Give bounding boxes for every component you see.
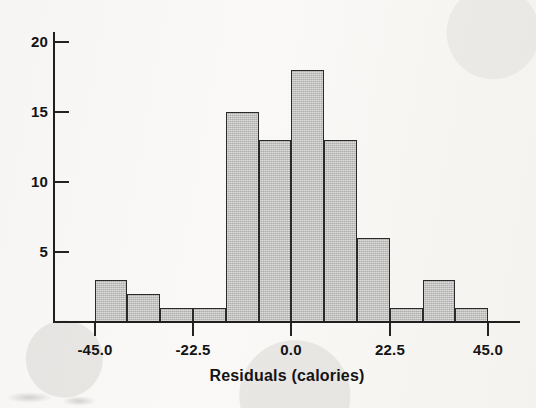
histogram-plot: 20 15 10 5 -45.0 -22.5 0.0 22.5 45.0 Res… bbox=[0, 0, 536, 408]
histogram-bar bbox=[226, 112, 259, 322]
histogram-bar bbox=[455, 308, 488, 322]
x-tick-22-5 bbox=[389, 323, 391, 336]
x-tick-45 bbox=[487, 323, 489, 336]
x-tick--45 bbox=[94, 323, 96, 336]
histogram-bar bbox=[127, 294, 160, 322]
y-tick-10 bbox=[55, 181, 69, 183]
y-tick-label-20: 20 bbox=[10, 33, 48, 50]
y-axis-line bbox=[53, 32, 55, 323]
y-tick-15 bbox=[55, 111, 69, 113]
x-tick-0 bbox=[290, 323, 292, 336]
x-tick-label-22-5: 22.5 bbox=[350, 341, 430, 358]
x-tick-label-45: 45.0 bbox=[448, 341, 528, 358]
histogram-bar bbox=[193, 308, 226, 322]
y-tick-label-10: 10 bbox=[10, 173, 48, 190]
figure-canvas: 20 15 10 5 -45.0 -22.5 0.0 22.5 45.0 Res… bbox=[0, 0, 536, 408]
x-tick-label-0: 0.0 bbox=[251, 341, 331, 358]
histogram-bar bbox=[160, 308, 193, 322]
x-tick-label--45: -45.0 bbox=[55, 341, 135, 358]
x-axis-line bbox=[53, 321, 520, 323]
x-tick-label--22-5: -22.5 bbox=[153, 341, 233, 358]
histogram-bar bbox=[324, 140, 357, 322]
y-tick-label-5: 5 bbox=[10, 243, 48, 260]
y-tick-5 bbox=[55, 251, 69, 253]
histogram-bar bbox=[95, 280, 128, 322]
histogram-bar bbox=[259, 140, 292, 322]
histogram-bar bbox=[390, 308, 423, 322]
y-tick-label-15: 15 bbox=[10, 103, 48, 120]
histogram-bar bbox=[423, 280, 456, 322]
histogram-bar bbox=[357, 238, 390, 322]
x-axis-title: Residuals (calories) bbox=[127, 367, 447, 385]
histogram-bar bbox=[291, 70, 324, 322]
y-tick-20 bbox=[55, 41, 69, 43]
x-tick--22-5 bbox=[192, 323, 194, 336]
